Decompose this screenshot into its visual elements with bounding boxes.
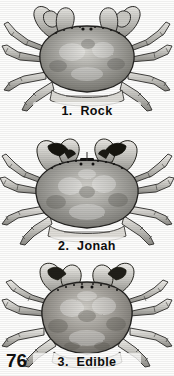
- book-page: 1. Rock: [0, 0, 174, 376]
- page-number: 76: [6, 350, 27, 372]
- figure-caption-jonah: 2. Jonah: [0, 239, 174, 253]
- figure-caption-rock: 1. Rock: [0, 104, 174, 118]
